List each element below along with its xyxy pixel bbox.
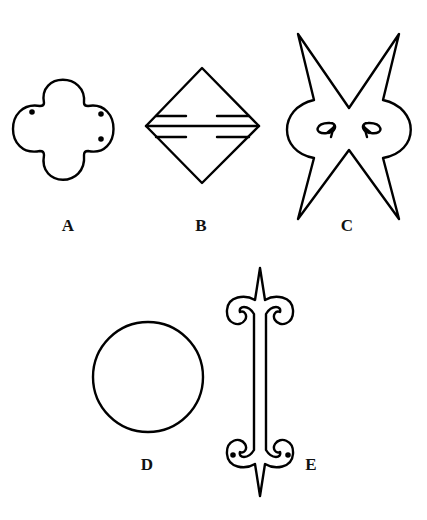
figure-canvas [0,0,427,520]
dot [231,453,234,456]
shape-d-circle [93,322,203,432]
shape-e-ornamental-bar [227,268,293,496]
label-d: D [141,455,153,475]
dot [30,110,33,113]
shape-a-quatrefoil [13,80,114,180]
label-c: C [341,216,353,236]
dot [99,137,102,140]
dot [286,453,289,456]
label-a: A [62,216,74,236]
shape-c-x-star [287,34,411,219]
label-e: E [305,455,316,475]
dot [99,112,102,115]
label-b: B [195,216,206,236]
shape-b-diamond [146,68,259,183]
